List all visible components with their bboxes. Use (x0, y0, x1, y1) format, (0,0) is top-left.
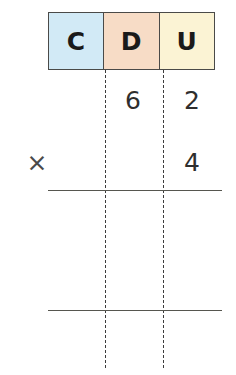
first-rule (48, 190, 222, 191)
column-guide-tens-units (163, 70, 164, 368)
second-rule (48, 310, 222, 311)
header-cell-units: U (159, 13, 214, 69)
worksheet-canvas: C D U 6 2 × 4 (0, 0, 236, 375)
multiplier-digit-units: 4 (172, 148, 212, 177)
header-label-tens: D (121, 27, 142, 56)
header-cell-tens: D (103, 13, 158, 69)
header-cell-hundreds: C (49, 13, 103, 69)
multiplication-operator-icon: × (22, 148, 52, 177)
place-value-header-table: C D U (48, 12, 215, 70)
header-label-units: U (176, 27, 197, 56)
column-guide-hundreds-tens (105, 70, 106, 368)
header-label-hundreds: C (67, 27, 86, 56)
operand-digit-units: 2 (172, 86, 212, 115)
operand-digit-tens: 6 (113, 86, 153, 115)
